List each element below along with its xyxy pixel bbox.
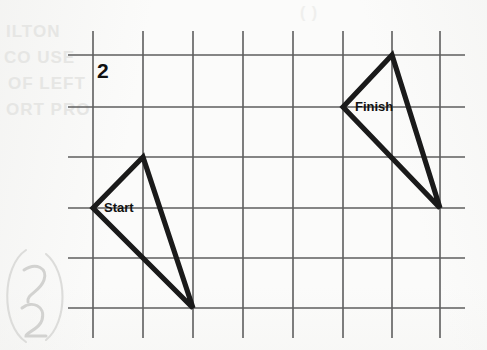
start-label: Start [104, 200, 134, 215]
finish-label: Finish [355, 99, 393, 114]
worksheet-page: ILTON CO USE OF LEFT ORT PRO ( ) [0, 0, 487, 350]
grid-vertical-lines [93, 31, 440, 338]
figure-number: 2 [97, 59, 109, 83]
geometry-figure [0, 0, 487, 350]
